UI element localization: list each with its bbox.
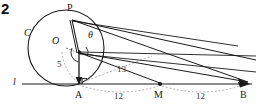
measure-radius-5: 5 — [57, 60, 62, 69]
problem-number: 2 — [1, 1, 9, 16]
measure-hypotenuse-13: 13 — [117, 65, 126, 74]
figure-page: 2 C O P θ l A M B 5 13 12 12 — [0, 0, 260, 110]
measure-segment-mb-12: 12 — [196, 92, 205, 101]
label-line-l: l — [13, 77, 16, 87]
dotted-radius-5 — [62, 52, 77, 82]
geometry-figure — [0, 0, 260, 110]
label-circle-c: C — [24, 28, 31, 38]
measure-segment-am-12: 12 — [114, 92, 123, 101]
label-center-o: O — [52, 36, 59, 46]
label-point-a: A — [75, 90, 82, 100]
ray-v-to-b — [80, 53, 248, 82]
ray-p-to-b — [72, 20, 248, 82]
angle-arc-left — [71, 48, 78, 62]
vertex-dot — [78, 51, 82, 55]
point-m-dot — [158, 82, 162, 86]
label-angle-theta: θ — [88, 30, 93, 40]
label-point-m: M — [154, 90, 163, 100]
ray-p-right-top — [72, 21, 238, 46]
label-point-p: P — [67, 3, 73, 13]
label-point-b: B — [240, 90, 247, 100]
